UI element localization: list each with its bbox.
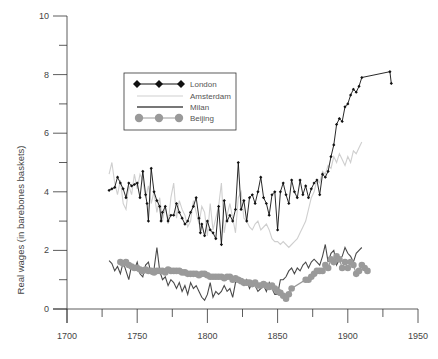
x-tick-label: 1850 [268,331,288,341]
y-tick-label: 2 [44,245,49,255]
legend-label: Beijing [190,114,214,123]
x-tick-label: 1750 [127,331,147,341]
real-wages-chart: 0246810170017501800185019001950 Real wag… [0,0,438,359]
x-tick-label: 1950 [408,331,428,341]
y-tick-label: 6 [44,128,49,138]
legend-label: London [190,80,217,89]
x-tick-label: 1900 [338,331,358,341]
y-tick-label: 8 [44,70,49,80]
y-axis-title: Real wages (in barebones baskets) [15,146,26,295]
legend-label: Amsterdam [190,92,231,101]
y-tick-label: 4 [44,187,49,197]
y-tick-label: 10 [39,11,49,21]
legend-label: Milan [190,103,209,112]
x-tick-label: 1800 [197,331,217,341]
legend: LondonAmsterdamMilanBeijing [124,73,236,130]
x-tick-label: 1700 [57,331,77,341]
y-tick-label: 0 [44,304,49,314]
